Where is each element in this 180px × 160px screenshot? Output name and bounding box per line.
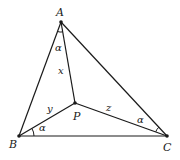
angle-label-c: α xyxy=(137,114,144,125)
label-c: C xyxy=(163,141,172,154)
point-b xyxy=(17,134,21,138)
point-c xyxy=(165,134,169,138)
angle-label-b: α xyxy=(39,122,46,133)
angle-arc-c xyxy=(156,127,159,132)
label-p: P xyxy=(72,110,81,123)
label-a: A xyxy=(55,6,64,19)
angle-arc-a xyxy=(58,32,63,33)
point-p xyxy=(73,101,77,105)
label-y: y xyxy=(46,103,53,114)
angle-label-a: α xyxy=(55,42,62,53)
label-b: B xyxy=(8,138,17,151)
point-a xyxy=(59,20,63,24)
segment-cp xyxy=(75,103,167,136)
label-z: z xyxy=(105,102,112,113)
label-x: x xyxy=(58,65,64,76)
side-ab xyxy=(19,22,61,136)
angle-arc-b xyxy=(32,128,34,136)
geometry-diagram: A B C P x y z α α α xyxy=(0,0,180,160)
